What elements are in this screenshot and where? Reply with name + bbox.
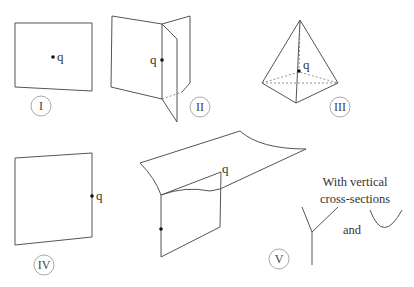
figure-v-hanging-plane bbox=[161, 172, 221, 257]
figure-v-left-curve bbox=[140, 163, 161, 195]
figure-ii-front-plane bbox=[162, 24, 177, 122]
figure-i: q I bbox=[15, 23, 92, 116]
caption-line-2: cross-sections bbox=[320, 192, 390, 206]
figure-iii-label: III bbox=[334, 100, 346, 114]
y-shape-cross-section-icon bbox=[302, 207, 338, 265]
figure-ii-hidden-edge bbox=[162, 92, 182, 99]
figure-v-front-right-edge bbox=[220, 149, 306, 189]
figure-v: q V bbox=[140, 131, 306, 269]
figure-v-point-label: q bbox=[222, 161, 229, 176]
figure-iii-hidden-back bbox=[262, 72, 338, 83]
figure-iv-point bbox=[90, 194, 94, 198]
figure-ii-right-plane bbox=[162, 16, 190, 83]
figure-ii-point-label: q bbox=[150, 52, 157, 67]
u-shape-cross-section-icon bbox=[370, 210, 402, 228]
figure-v-label: V bbox=[275, 252, 284, 266]
figure-ii-point bbox=[160, 58, 164, 62]
caption-line-1: With vertical bbox=[322, 175, 388, 189]
figure-iii: q III bbox=[262, 20, 350, 117]
figure-v-top-back-edge bbox=[140, 131, 240, 163]
figure-iv: q IV bbox=[15, 153, 103, 275]
figure-iv-point-label: q bbox=[96, 188, 103, 203]
figure-iii-point bbox=[297, 69, 301, 73]
figure-ii-label: II bbox=[196, 100, 204, 114]
diagram-canvas: q I q II q III q IV bbox=[0, 0, 414, 287]
caption-conjunction: and bbox=[343, 223, 362, 237]
figure-i-point bbox=[51, 55, 55, 59]
figure-iii-point-label: q bbox=[303, 57, 310, 72]
figure-iv-plane bbox=[15, 153, 92, 245]
figure-i-point-label: q bbox=[57, 49, 64, 64]
figure-iii-front-edge bbox=[296, 20, 300, 103]
figure-iv-label: IV bbox=[38, 258, 51, 272]
figure-ii-right-plane-bottom bbox=[182, 83, 190, 92]
figure-v-right-curve bbox=[240, 131, 306, 149]
cross-section-caption: With vertical cross-sections and bbox=[302, 175, 402, 265]
figure-v-point bbox=[159, 227, 163, 231]
figure-i-label: I bbox=[39, 99, 43, 113]
figure-ii: q II bbox=[111, 16, 210, 122]
figure-iii-outline bbox=[262, 20, 338, 103]
